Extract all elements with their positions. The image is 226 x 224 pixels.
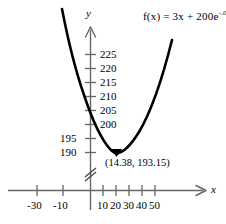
y-tick-label-190: 190 xyxy=(60,147,77,158)
y-axis-label: y xyxy=(86,8,91,19)
y-tick-label-195: 195 xyxy=(60,133,77,144)
y-tick-label-200: 200 xyxy=(100,119,117,130)
minimum-point-label: (14.38, 193.15) xyxy=(105,158,170,169)
x-tick-label--10: -10 xyxy=(53,200,68,211)
x-tick-label--30: -30 xyxy=(27,200,42,211)
x-tick-label-10: 10 xyxy=(97,200,108,211)
x-tick-label-20: 20 xyxy=(110,200,121,211)
function-formula: f(x) = 3x + 200e-.02x xyxy=(143,10,226,22)
y-tick-label-210: 210 xyxy=(100,91,117,102)
x-tick-label-30: 30 xyxy=(123,200,134,211)
curve-series xyxy=(62,9,172,153)
x-tick-label-40: 40 xyxy=(136,200,147,211)
y-tick-label-225: 225 xyxy=(100,49,117,60)
y-tick-label-220: 220 xyxy=(100,63,117,74)
x-tick-label-50: 50 xyxy=(149,200,160,211)
function-curve xyxy=(62,9,172,153)
function-formula-text: f(x) = 3x + 200e xyxy=(143,10,218,22)
y-tick-label-205: 205 xyxy=(100,105,117,116)
function-formula-exponent: -.02x xyxy=(218,9,226,17)
x-axis xyxy=(8,185,206,196)
figure-canvas: f(x) = 3x + 200e-.02x y x 225 220 215 21… xyxy=(0,0,226,224)
y-axis xyxy=(85,27,96,210)
x-axis-label: x xyxy=(211,184,216,195)
y-tick-label-215: 215 xyxy=(100,77,117,88)
